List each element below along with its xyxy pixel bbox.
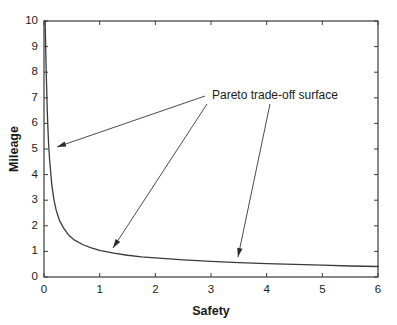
y-axis-ticks: [44, 21, 378, 277]
y-tick-label: 9: [20, 41, 38, 53]
y-axis-title: Mileage: [8, 126, 21, 172]
pareto-annotation-label: Pareto trade-off surface: [212, 89, 338, 101]
figure-container: 0123456 012345678910 Safety Mileage Pare…: [0, 0, 397, 325]
axes-frame: [44, 21, 378, 277]
x-axis-title: Safety: [192, 305, 230, 318]
plot-canvas: [0, 0, 397, 325]
y-tick-label: 6: [20, 118, 38, 130]
x-tick-label: 4: [263, 284, 269, 296]
annotation-leader-line: [238, 104, 270, 257]
annotation-leader-line: [57, 96, 205, 147]
y-tick-label: 8: [20, 66, 38, 78]
y-tick-label: 1: [20, 246, 38, 258]
x-tick-label: 3: [208, 284, 214, 296]
x-tick-label: 0: [41, 284, 47, 296]
x-tick-label: 1: [96, 284, 102, 296]
y-tick-label: 10: [20, 15, 38, 27]
y-tick-label: 5: [20, 143, 38, 155]
y-tick-label: 7: [20, 92, 38, 104]
annotation-leader-lines: [57, 96, 270, 257]
annotation-arrowhead: [113, 239, 120, 248]
plot-frame-border: [44, 21, 378, 277]
annotation-arrowhead: [57, 142, 66, 147]
annotation-leader-line: [113, 104, 207, 248]
x-tick-label: 5: [319, 284, 325, 296]
y-tick-label: 0: [20, 271, 38, 283]
x-axis-ticks: [44, 21, 378, 277]
annotation-arrowhead: [237, 248, 242, 257]
y-tick-label: 4: [20, 169, 38, 181]
pareto-curve: [45, 21, 378, 267]
y-tick-label: 2: [20, 220, 38, 232]
x-tick-label: 6: [375, 284, 381, 296]
y-tick-label: 3: [20, 194, 38, 206]
x-tick-label: 2: [152, 284, 158, 296]
